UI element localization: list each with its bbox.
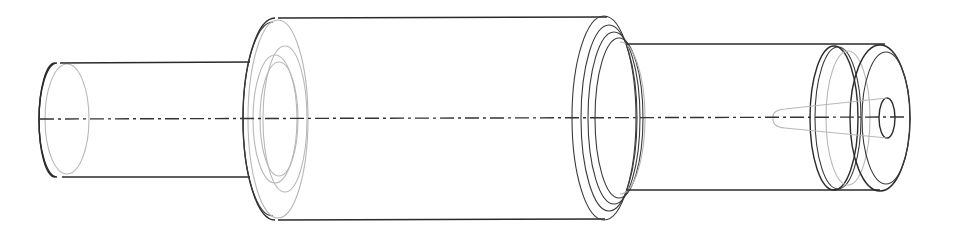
center-bore — [879, 98, 895, 138]
main-body-bottom-edge — [278, 219, 605, 220]
end-face-inner — [862, 52, 910, 184]
collar-ring-2 — [815, 47, 861, 189]
main-body-top-edge — [278, 17, 607, 18]
centerline — [40, 117, 905, 119]
left-shaft-top-edge — [60, 62, 250, 63]
shaft-drawing — [0, 0, 953, 231]
left-shaft-end-face-outer — [39, 63, 57, 177]
collar-hidden-ring — [826, 51, 870, 185]
